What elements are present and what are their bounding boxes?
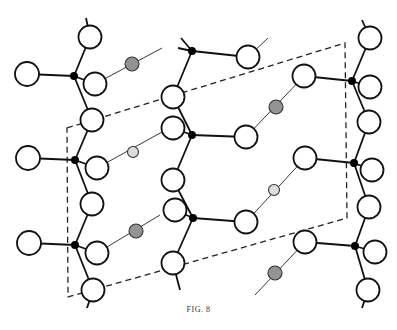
large-atoms (15, 26, 387, 302)
light-atoms (128, 147, 280, 196)
hatched-atoms (125, 57, 283, 280)
figure-caption: FIG. 8 (0, 305, 397, 314)
hydrogen-bonds (95, 38, 305, 295)
crystal-structure-diagram (0, 0, 397, 330)
covalent-bonds (27, 18, 375, 308)
